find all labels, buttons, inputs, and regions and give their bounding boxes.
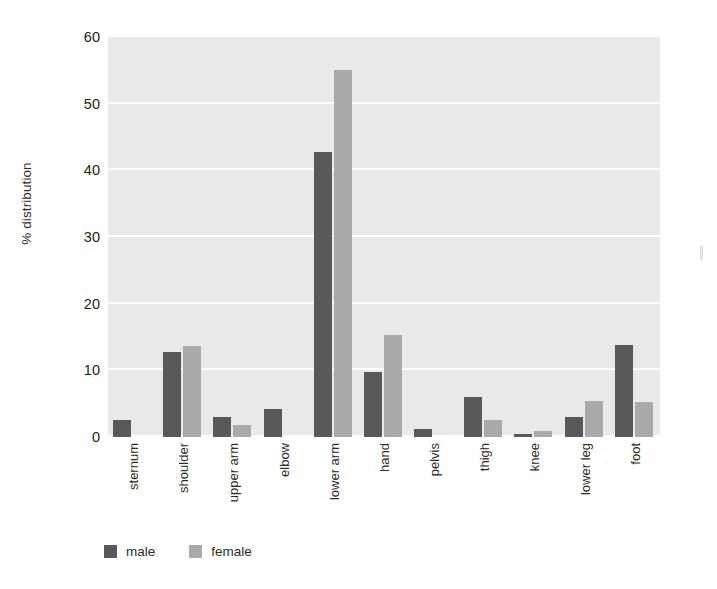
bar-female xyxy=(384,335,402,437)
x-axis-tick-label: hand xyxy=(377,443,392,472)
y-axis-tick-label: 60 xyxy=(48,29,100,45)
legend-swatch-icon xyxy=(104,545,117,558)
scan-artifact xyxy=(700,246,703,260)
bar-group xyxy=(108,37,158,437)
x-axis-tick-label: upper arm xyxy=(226,443,241,502)
bar-male xyxy=(113,420,131,437)
legend-item: male xyxy=(104,544,155,559)
y-axis-tick-label: 10 xyxy=(48,362,100,378)
bar-group xyxy=(359,37,409,437)
bar-male xyxy=(514,434,532,437)
bar-female xyxy=(635,402,653,437)
y-axis-tick-label: 20 xyxy=(48,296,100,312)
bar-group xyxy=(610,37,660,437)
x-axis-tick-labels: sternumshoulderupper armelbowlower armha… xyxy=(108,443,660,543)
x-axis-tick-label: knee xyxy=(527,443,542,471)
bar-female xyxy=(484,420,502,437)
legend-item: female xyxy=(189,544,252,559)
bar-group xyxy=(459,37,509,437)
plot-area xyxy=(108,37,660,437)
bar-male xyxy=(163,352,181,437)
legend-label: male xyxy=(126,544,155,559)
y-axis-tick-label: 40 xyxy=(48,162,100,178)
x-axis-tick-label: shoulder xyxy=(176,443,191,493)
bar-group xyxy=(409,37,459,437)
bar-group xyxy=(158,37,208,437)
bar-female xyxy=(233,425,251,437)
bar-male xyxy=(615,345,633,437)
y-axis-tick-label: 50 xyxy=(48,96,100,112)
bar-male xyxy=(264,409,282,437)
x-axis-tick-label: elbow xyxy=(277,443,292,477)
y-axis-tick-label: 30 xyxy=(48,229,100,245)
legend: malefemale xyxy=(104,544,252,559)
bar-group xyxy=(560,37,610,437)
bar-group xyxy=(309,37,359,437)
bar-male xyxy=(565,417,583,437)
y-axis-tick-label: 0 xyxy=(48,429,100,445)
bar-male xyxy=(414,429,432,437)
x-axis-tick-label: lower arm xyxy=(327,443,342,500)
x-axis-tick-label: lower leg xyxy=(578,443,593,495)
x-axis-tick-label: sternum xyxy=(126,443,141,490)
x-axis-tick-label: thigh xyxy=(477,443,492,471)
bar-group xyxy=(208,37,258,437)
bar-male xyxy=(314,152,332,437)
bar-group xyxy=(509,37,559,437)
bar-chart: % distribution 0102030405060 sternumshou… xyxy=(0,0,717,589)
bar-male xyxy=(213,417,231,437)
bar-male xyxy=(364,372,382,437)
legend-label: female xyxy=(211,544,252,559)
bar-female xyxy=(534,431,552,437)
bar-male xyxy=(464,397,482,437)
x-axis-tick-label: foot xyxy=(628,443,643,465)
bar-female xyxy=(334,70,352,437)
bar-female xyxy=(585,401,603,437)
x-axis-tick-label: pelvis xyxy=(427,443,442,476)
legend-swatch-icon xyxy=(189,545,202,558)
bar-group xyxy=(259,37,309,437)
bar-female xyxy=(183,346,201,437)
